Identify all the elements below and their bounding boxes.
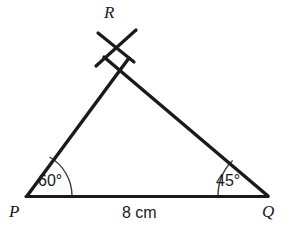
vertex-label-p: P [9,203,19,220]
angle-label-p: 60° [38,173,62,189]
vertex-label-q: Q [262,203,274,220]
geometry-svg [0,0,292,231]
angle-label-q: 45° [216,173,240,189]
side-qr [104,57,268,196]
vertex-label-r: R [104,4,114,21]
side-length-label-pq: 8 cm [122,205,157,221]
triangle-diagram: P Q R 60° 45° 8 cm [0,0,292,231]
